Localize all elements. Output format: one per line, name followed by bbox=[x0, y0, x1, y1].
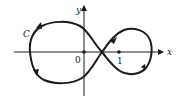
curve-left-lobe bbox=[30, 22, 102, 83]
curve-label: C bbox=[23, 29, 30, 39]
curve-c bbox=[30, 22, 152, 83]
figure-eight-curve-diagram: C y x 0 1 bbox=[0, 0, 179, 104]
direction-arrow-icon bbox=[36, 22, 42, 29]
x-axis-label: x bbox=[167, 47, 172, 57]
y-axis-label: y bbox=[75, 5, 82, 15]
tick-label-one: 1 bbox=[117, 56, 123, 66]
origin-label: 0 bbox=[75, 55, 81, 65]
origin-point bbox=[82, 50, 86, 54]
point-one bbox=[117, 50, 121, 54]
